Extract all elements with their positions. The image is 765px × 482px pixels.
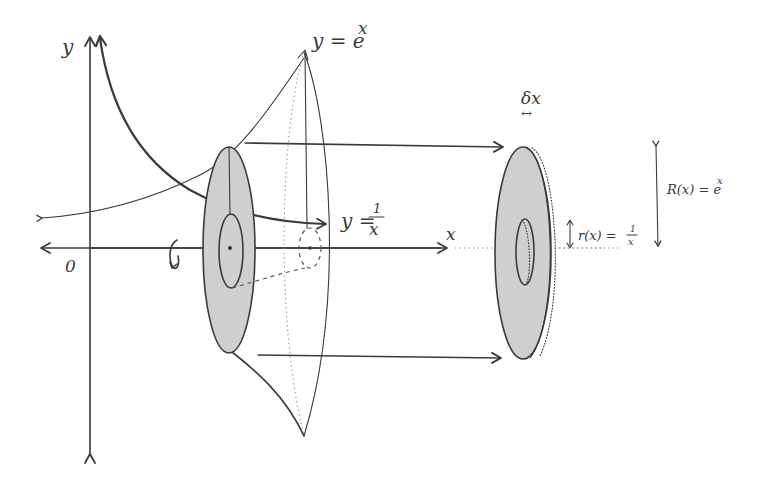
exp-curve-superscript: x xyxy=(358,18,368,38)
outer-radius-label: R(x) = e xyxy=(666,182,721,197)
curve-exponential xyxy=(42,58,304,218)
x-axis-label: x xyxy=(446,224,456,244)
thickness-label: δx xyxy=(521,88,541,108)
solid-outer-edge xyxy=(304,52,329,436)
solid-lower-profile xyxy=(232,352,304,436)
inner-radius-marker xyxy=(567,220,573,248)
outer-radius-superscript: x xyxy=(717,175,723,186)
inner-radius-label: r(x) = xyxy=(578,228,617,243)
recip-curve-numerator: 1 xyxy=(373,201,381,216)
far-center-dot xyxy=(308,246,312,250)
solid-washer-slice xyxy=(203,147,255,353)
washer-method-diagram: y 0 x δx ↔ xyxy=(0,0,765,482)
origin-label: 0 xyxy=(65,256,76,276)
recip-curve-denominator: x xyxy=(369,219,379,239)
inner-radius-denominator: x xyxy=(628,236,634,247)
solid-back-edge-dotted xyxy=(284,52,304,436)
exp-curve-label: y = e xyxy=(311,29,365,53)
isolated-washer xyxy=(495,147,555,359)
y-axis-label: y xyxy=(61,35,74,59)
inner-radius-numerator: 1 xyxy=(630,224,636,234)
projection-arrow-bottom xyxy=(258,355,500,358)
projection-arrow-top xyxy=(245,143,502,147)
outer-radius-marker xyxy=(656,146,658,246)
rotation-arrow-icon xyxy=(170,240,179,268)
guide-vertical xyxy=(305,52,307,228)
thickness-arrow-icon: ↔ xyxy=(521,106,532,121)
